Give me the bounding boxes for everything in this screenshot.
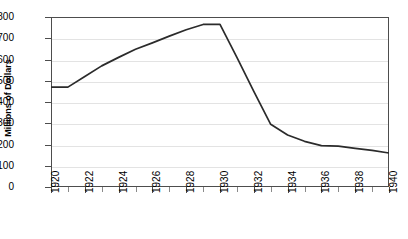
x-axis-tick-label-text: 1930 [220, 171, 230, 193]
x-axis-minor-tick [203, 187, 204, 192]
series-value [51, 17, 389, 187]
series-line [51, 24, 389, 153]
x-axis-minor-tick [169, 187, 170, 192]
x-axis-minor-tick [271, 187, 272, 192]
y-axis-tick-label: 200 [0, 140, 14, 150]
x-axis-minor-tick [102, 187, 103, 192]
x-axis-minor-tick [237, 187, 238, 192]
x-axis-tick-label-text: 1936 [321, 171, 331, 193]
line-chart: Millions of Dollars 01002003004005006007… [0, 0, 408, 239]
y-axis-tick-label: 700 [0, 33, 14, 43]
x-axis-tick-label-text: 1940 [389, 171, 399, 193]
x-axis-tick-label-text: 1928 [186, 171, 196, 193]
y-axis-tick-label: 300 [0, 118, 14, 128]
x-axis-minor-tick [338, 187, 339, 192]
y-axis-tick-label: 400 [0, 97, 14, 107]
y-axis-tick-label: 0 [0, 182, 14, 192]
x-axis-tick-label: 1940 [382, 193, 408, 207]
x-axis-tick-label-text: 1924 [119, 171, 129, 193]
x-axis-minor-tick [305, 187, 306, 192]
y-axis-tick-label: 600 [0, 55, 14, 65]
y-axis-tick-label: 800 [0, 12, 14, 22]
x-axis-minor-tick [68, 187, 69, 192]
x-axis-tick-label-text: 1934 [288, 171, 298, 193]
x-axis-minor-tick [136, 187, 137, 192]
x-axis-tick-label-text: 1938 [355, 171, 365, 193]
y-axis-tick-label: 100 [0, 161, 14, 171]
x-axis-minor-tick [372, 187, 373, 192]
x-axis-tick-label-text: 1920 [51, 171, 61, 193]
x-axis-tick-label-text: 1922 [85, 171, 95, 193]
x-axis-tick-label-text: 1926 [152, 171, 162, 193]
y-axis-tick-label: 500 [0, 76, 14, 86]
x-axis-tick-label-text: 1932 [254, 171, 264, 193]
